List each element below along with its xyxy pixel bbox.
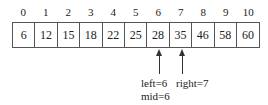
array-cell: 60 <box>237 23 259 47</box>
array-cell: 22 <box>103 23 125 47</box>
left-mid-arrow-icon <box>159 49 160 74</box>
arrow-shaft <box>182 54 183 74</box>
array-cell: 15 <box>58 23 80 47</box>
right-arrow-icon <box>182 49 183 74</box>
array-cell: 12 <box>35 23 57 47</box>
index-label: 1 <box>35 6 58 18</box>
index-label: 6 <box>147 6 170 18</box>
index-label: 10 <box>237 6 260 18</box>
array-cell: 58 <box>215 23 237 47</box>
index-label: 4 <box>102 6 125 18</box>
mid-pointer-label: mid=6 <box>141 90 170 103</box>
array-cell: 35 <box>170 23 192 47</box>
index-label: 0 <box>12 6 35 18</box>
left-pointer-label: left=6 <box>141 77 167 90</box>
index-label: 3 <box>80 6 103 18</box>
array-cell: 25 <box>125 23 147 47</box>
array-cell: 18 <box>80 23 102 47</box>
index-label: 5 <box>125 6 148 18</box>
array-cell: 6 <box>13 23 35 47</box>
index-label: 2 <box>57 6 80 18</box>
index-label: 8 <box>192 6 215 18</box>
array-cell: 46 <box>192 23 214 47</box>
right-pointer-label: right=7 <box>176 77 208 90</box>
arrow-shaft <box>159 54 160 74</box>
array-cell: 28 <box>147 23 169 47</box>
array-box: 6 12 15 18 22 25 28 35 46 58 60 <box>12 22 260 48</box>
index-label: 7 <box>170 6 193 18</box>
index-row: 0 1 2 3 4 5 6 7 8 9 10 <box>12 6 260 18</box>
index-label: 9 <box>215 6 238 18</box>
